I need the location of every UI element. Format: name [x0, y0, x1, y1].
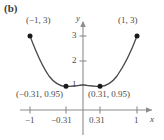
- annotation-left-endpoint: (−1, 3): [26, 16, 51, 25]
- y-axis-arrow-icon: [80, 21, 86, 27]
- x-axis-arrow-icon: [146, 107, 152, 113]
- x-axis-label: x: [150, 115, 154, 124]
- x-tick-label-neg031: −0.31: [51, 116, 72, 125]
- x-tick-label-pos1: 1: [134, 116, 139, 125]
- figure-panel-b: (b) y x 3 2 1 −1 −0.31 0.31 1 (−1, 3) (1…: [0, 0, 164, 140]
- data-point-left-endpoint: [28, 34, 33, 39]
- y-tick-label-1: 1: [72, 80, 77, 89]
- panel-label: (b): [4, 3, 17, 14]
- y-tick-label-3: 3: [72, 31, 77, 40]
- x-tick-label-pos031: 0.31: [89, 116, 105, 125]
- y-axis-label: y: [76, 14, 80, 23]
- annotation-left-minimum: (−0.31, 0.95): [16, 90, 63, 99]
- annotation-right-minimum: (0.31, 0.95): [88, 90, 130, 99]
- data-point-right-endpoint: [135, 34, 140, 39]
- y-tick-label-2: 2: [72, 56, 77, 65]
- annotation-right-endpoint: (1, 3): [118, 16, 138, 25]
- data-point-left-minimum: [64, 84, 69, 89]
- x-tick-label-neg1: −1: [25, 116, 35, 125]
